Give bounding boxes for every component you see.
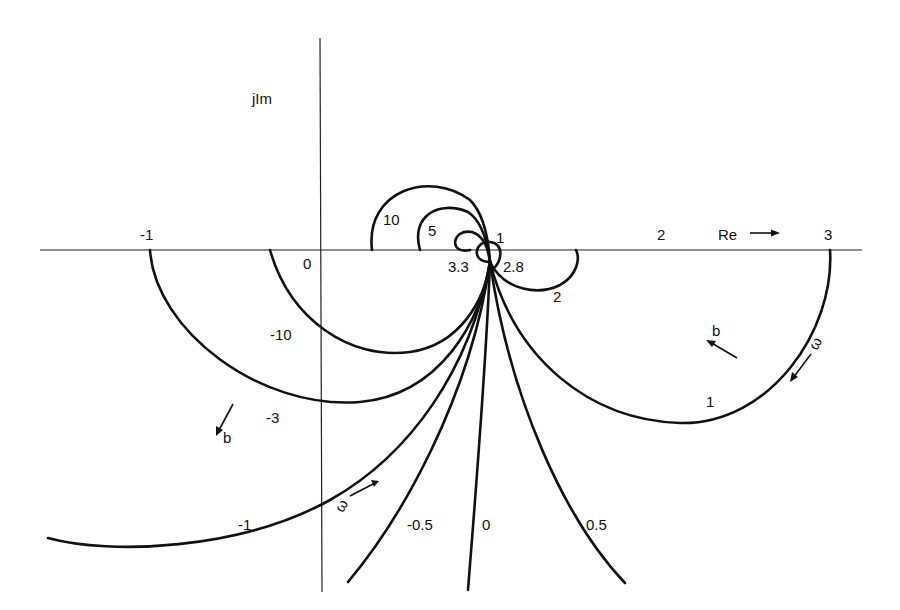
label-curve-0.5: 0.5 xyxy=(586,516,607,533)
label-curve-0: 0 xyxy=(482,516,490,533)
y-axis-label: jIm xyxy=(251,90,272,107)
label-curve-minus0.5: -0.5 xyxy=(407,516,433,533)
label-curve-1: 1 xyxy=(706,393,714,410)
tick-3: 3 xyxy=(824,226,832,243)
label-curve-10: 10 xyxy=(383,211,400,228)
tick-1: 1 xyxy=(496,229,504,246)
label-b-right: b xyxy=(712,322,720,339)
curve-minus1 xyxy=(48,262,490,547)
label-curve-minus1: -1 xyxy=(238,516,251,533)
b-arrowhead-right-icon xyxy=(706,340,716,347)
curve-0.5 xyxy=(490,262,625,583)
tick-2: 2 xyxy=(657,226,665,243)
omega-arrowhead-left-icon xyxy=(371,480,379,487)
label-curve-5: 5 xyxy=(428,222,436,239)
re-arrowhead-icon xyxy=(771,230,780,237)
label-b-left: b xyxy=(223,429,231,446)
tick-minus1: -1 xyxy=(140,226,153,243)
b-arrowhead-left-icon xyxy=(216,426,223,436)
label-curve-2: 2 xyxy=(553,288,561,305)
label-omega-right: ω xyxy=(805,334,826,353)
x-axis-label: Re xyxy=(718,226,737,243)
omega-arrow-right-icon xyxy=(793,354,811,378)
curve-1 xyxy=(490,250,830,423)
nyquist-plot: jIm Re -1 0 1 2 3 10 5 3.3 2.8 2 -10 -3 … xyxy=(0,0,900,610)
label-curve-2.8: 2.8 xyxy=(503,258,524,275)
label-curve-minus3: -3 xyxy=(266,409,279,426)
label-curve-minus10: -10 xyxy=(270,326,292,343)
label-curve-3.3: 3.3 xyxy=(448,258,469,275)
b-arrow-right-icon xyxy=(710,342,737,358)
b-arrow-left-icon xyxy=(218,404,233,432)
tick-0: 0 xyxy=(303,255,311,272)
imaginary-axis xyxy=(320,38,322,592)
